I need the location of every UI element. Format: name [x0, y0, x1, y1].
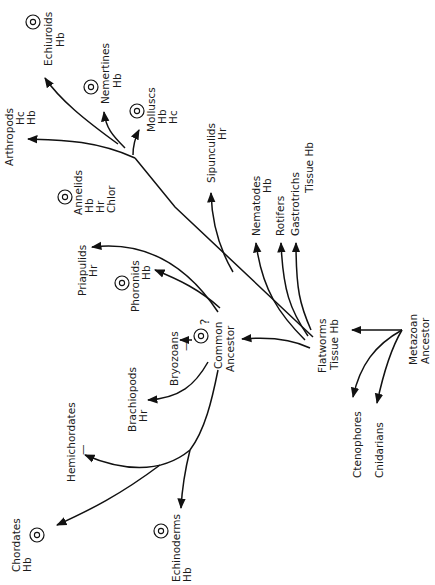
branch-rotifers: [281, 243, 308, 336]
label-priapulids-pigment: Hr: [87, 264, 99, 277]
branch-gastrotrichs: [296, 243, 311, 330]
label-ctenophores: Ctenophores: [351, 411, 363, 478]
branch-hemichordates: [85, 450, 190, 468]
branch-cnidarians: [377, 330, 402, 403]
labels: Echiuroids Hb Nemertines Hb Molluscs Hb …: [3, 12, 431, 582]
label-gastrotrichs: Gastrotrichs: [289, 172, 301, 236]
label-flatworms: Flatworms: [316, 319, 328, 373]
label-metazoan-ancestor-1: Metazoan: [407, 314, 419, 365]
label-hemichordates: Hemichordates: [65, 402, 77, 482]
coelom-icon-echinoderms: [154, 524, 168, 538]
label-cnidarians: Cnidarians: [373, 422, 385, 478]
phylogeny-diagram: Echiuroids Hb Nemertines Hb Molluscs Hb …: [0, 0, 435, 585]
label-sipunculids-pigment: Hr: [216, 127, 228, 140]
label-metazoan-ancestor-2: Ancestor: [419, 317, 431, 364]
branch-sipunculids: [211, 193, 233, 272]
label-chordates-pigment: Hb: [21, 557, 33, 572]
branch-ctenophores: [353, 330, 402, 397]
label-annelids-pigment-3: Chlor: [105, 185, 117, 213]
coelom-symbols: [26, 15, 208, 542]
coelom-icon-molluscs: [130, 104, 144, 118]
label-phoronids-pigment: Hb: [140, 265, 152, 280]
coelom-icon-chordates: [30, 528, 44, 542]
label-nemertines-pigment: Hb: [111, 73, 123, 88]
branch-echinoderms: [181, 450, 190, 508]
label-common-ancestor-1: Common: [212, 322, 224, 369]
branch-flatworms-common: [242, 338, 310, 348]
coelom-icon-annelids: [58, 190, 72, 204]
label-echiuroids-pigment: Hb: [54, 32, 66, 47]
label-bryozoans-question: ?: [198, 319, 212, 325]
coelom-icon-echiuroids: [26, 15, 40, 29]
label-rotifers: Rotifers: [274, 196, 286, 236]
coelom-icon-nemertines: [84, 80, 98, 94]
label-common-ancestor-2: Ancestor: [224, 325, 236, 372]
label-nematodes-pigment: Hb: [261, 178, 273, 193]
label-gastrotrichs-pigment: Tissue Hb: [303, 142, 315, 194]
branch-priapulids: [92, 246, 218, 312]
label-arthropods-pigment-2: Hb: [25, 110, 37, 125]
label-flatworms-pigment: Tissue Hb: [328, 319, 340, 371]
label-molluscs-pigment-2: Hc: [167, 110, 179, 124]
label-nemertines: Nemertines: [99, 43, 111, 104]
coelom-icon-phoronids: [115, 276, 129, 290]
coelom-icon-bryozoans: [194, 329, 208, 343]
label-bryozoans: Bryozoans: [168, 331, 180, 386]
trunk-protostome: [135, 158, 313, 337]
label-echiuroids: Echiuroids: [42, 12, 54, 66]
label-brachiopods-pigment: Hr: [137, 409, 149, 422]
branch-nematodes: [256, 243, 305, 340]
label-hemichordates-pigment: —: [76, 445, 88, 456]
label-echinoderms-pigment: Hb: [181, 567, 193, 582]
branch-nemertines: [104, 112, 125, 148]
label-bryozoans-pigment: —: [179, 341, 191, 352]
branch-molluscs: [133, 130, 139, 155]
